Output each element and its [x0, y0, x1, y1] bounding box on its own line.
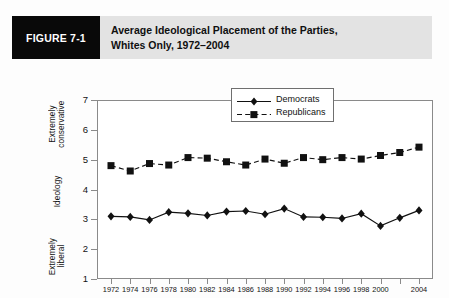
y-axis-tick-label: 1	[74, 273, 88, 284]
x-axis-tick-label: 1972	[103, 285, 119, 294]
y-axis-tick	[91, 160, 97, 161]
figure-title: Average Ideological Placement of the Par…	[100, 16, 432, 59]
x-axis-tick	[169, 279, 170, 284]
y-axis-tick-label: 6	[74, 124, 88, 135]
legend-item-democrats: Democrats	[237, 92, 326, 105]
y-axis-tick-label: 3	[74, 213, 88, 224]
x-axis-tick-label: 2000	[372, 285, 388, 294]
x-axis-tick	[188, 279, 189, 284]
y-axis-tick	[91, 100, 97, 101]
y-axis-tick-label: 2	[74, 243, 88, 254]
y-axis-caption-liberal: Extremely liberal	[48, 233, 70, 279]
legend-key-republicans	[237, 106, 271, 117]
x-axis-tick-label: 1992	[295, 285, 311, 294]
x-axis-tick-label: 1994	[315, 285, 331, 294]
y-axis-tick	[91, 190, 97, 191]
x-axis-tick-label: 1984	[218, 285, 234, 294]
x-axis-tick	[207, 279, 208, 284]
figure-title-line-2: Whites Only, 1972–2004	[111, 38, 432, 52]
y-axis-title-ideology: Ideology	[53, 173, 62, 210]
x-axis-tick	[227, 279, 228, 284]
x-axis-tick-label: 1988	[257, 285, 273, 294]
x-axis-tick-label: 1974	[122, 285, 138, 294]
chart-area: 1234567 19721974197619781980198219841986…	[0, 62, 449, 298]
x-axis-tick	[400, 279, 401, 284]
x-axis-tick	[130, 279, 131, 284]
x-axis-tick	[246, 279, 247, 284]
y-axis-tick	[91, 130, 97, 131]
x-axis-tick	[361, 279, 362, 284]
figure-title-line-1: Average Ideological Placement of the Par…	[111, 23, 432, 37]
x-axis-tick-label: 1978	[161, 285, 177, 294]
legend-label-republicans: Republicans	[276, 107, 326, 117]
x-axis-tick-label: 1976	[141, 285, 157, 294]
figure-header: FIGURE 7-1 Average Ideological Placement…	[12, 16, 432, 59]
chart-legend: Democrats Republicans	[231, 88, 334, 122]
y-axis-tick-label: 4	[74, 184, 88, 195]
legend-item-republicans: Republicans	[237, 105, 326, 118]
x-axis-tick	[265, 279, 266, 284]
x-axis-tick	[323, 279, 324, 284]
y-axis-tick	[91, 219, 97, 220]
x-axis-tick	[381, 279, 382, 284]
y-axis-tick-label: 5	[74, 154, 88, 165]
y-axis-tick	[91, 279, 97, 280]
figure-container: FIGURE 7-1 Average Ideological Placement…	[0, 0, 449, 298]
legend-key-democrats	[237, 93, 271, 104]
x-axis-tick	[284, 279, 285, 284]
x-axis-tick	[111, 279, 112, 284]
legend-label-democrats: Democrats	[276, 94, 320, 104]
x-axis-tick	[150, 279, 151, 284]
x-axis-tick-label: 1996	[334, 285, 350, 294]
y-axis-tick-label: 7	[74, 94, 88, 105]
y-axis-tick	[91, 249, 97, 250]
figure-number-tag: FIGURE 7-1	[12, 16, 100, 59]
x-axis-tick-label: 1980	[180, 285, 196, 294]
y-axis-caption-conservative: Extremely conservative	[48, 100, 70, 148]
x-axis-tick	[419, 279, 420, 284]
x-axis-tick-label: 1990	[276, 285, 292, 294]
x-axis-tick	[342, 279, 343, 284]
x-axis-tick-label: 2004	[411, 285, 427, 294]
plot-frame	[97, 100, 433, 279]
x-axis-tick	[304, 279, 305, 284]
x-axis-tick-label: 1998	[353, 285, 369, 294]
x-axis-tick-label: 1986	[238, 285, 254, 294]
x-axis-tick-label: 1982	[199, 285, 215, 294]
